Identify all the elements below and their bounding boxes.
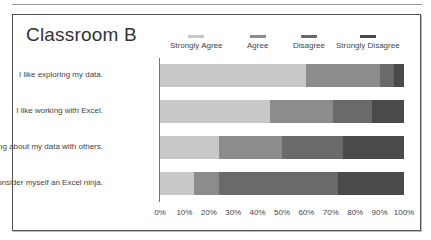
legend-swatch <box>301 35 317 38</box>
bar-segment-disagree <box>333 100 372 123</box>
category-label: I like exploring my data. <box>19 70 103 79</box>
bar-row <box>160 172 404 195</box>
legend-item-agree: Agree <box>247 35 268 50</box>
bar-segment-disagree <box>380 64 395 87</box>
x-tick-label: 0% <box>154 208 166 217</box>
x-tick-label: 80% <box>347 208 363 217</box>
legend-label: Strongly Disagree <box>336 41 400 50</box>
chart-legend: Strongly Agree Agree Disagree Strongly D… <box>170 35 410 57</box>
top-divider <box>12 4 422 5</box>
bar-row <box>160 136 404 159</box>
legend-swatch <box>250 35 266 38</box>
bar-segment-agree <box>306 64 379 87</box>
legend-swatch <box>360 35 376 38</box>
x-axis-ticks: 0%10%20%30%40%50%60%70%80%90%100% <box>0 208 431 220</box>
x-tick-label: 60% <box>298 208 314 217</box>
bar-segment-agree <box>194 172 218 195</box>
legend-item-strongly-disagree: Strongly Disagree <box>336 35 400 50</box>
x-tick-label: 90% <box>372 208 388 217</box>
bar-segment-strongly-agree <box>160 64 306 87</box>
bar-segment-disagree <box>219 172 339 195</box>
legend-swatch <box>188 35 204 38</box>
chart-title: Classroom B <box>26 24 137 46</box>
bar-segment-disagree <box>282 136 343 159</box>
legend-item-disagree: Disagree <box>293 35 325 50</box>
bar-segment-strongly-disagree <box>372 100 404 123</box>
legend-label: Disagree <box>293 41 325 50</box>
bar-segment-agree <box>219 136 282 159</box>
bar-segment-strongly-agree <box>160 172 194 195</box>
x-tick-label: 30% <box>225 208 241 217</box>
bar-row <box>160 64 404 87</box>
x-tick-label: 50% <box>274 208 290 217</box>
category-label: I consider myself an Excel ninja. <box>0 178 103 187</box>
x-tick-label: 70% <box>323 208 339 217</box>
bar-segment-strongly-agree <box>160 136 219 159</box>
bar-segment-strongly-disagree <box>343 136 404 159</box>
bar-segment-agree <box>270 100 333 123</box>
bar-segment-strongly-disagree <box>394 64 404 87</box>
legend-label: Agree <box>247 41 268 50</box>
legend-item-strongly-agree: Strongly Agree <box>170 35 222 50</box>
bar-segment-strongly-disagree <box>338 172 404 195</box>
category-label: I like talking about my data with others… <box>0 142 103 151</box>
x-tick-label: 20% <box>201 208 217 217</box>
bar-segment-strongly-agree <box>160 100 270 123</box>
x-tick-label: 40% <box>250 208 266 217</box>
legend-label: Strongly Agree <box>170 41 222 50</box>
x-tick-label: 10% <box>176 208 192 217</box>
category-label: I like working with Excel. <box>16 106 103 115</box>
bar-row <box>160 100 404 123</box>
x-tick-label: 100% <box>394 208 414 217</box>
